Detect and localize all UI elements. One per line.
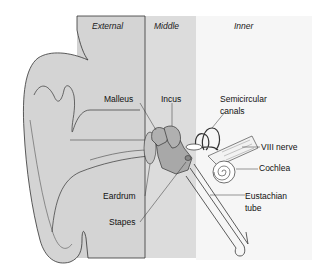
label-semicircular-line1: Semicircular <box>220 94 267 105</box>
vestibule-shape <box>186 144 202 150</box>
region-label-inner: Inner <box>234 21 253 31</box>
label-viii-nerve: VIII nerve <box>261 142 297 153</box>
label-semicircular-line2: canals <box>220 106 245 117</box>
region-middle-bg <box>145 16 196 129</box>
ear-anatomy-diagram: External Middle Inner Malleus Incus Semi… <box>0 0 318 279</box>
label-stapes: Stapes <box>109 217 135 228</box>
ear-illustration <box>0 0 318 279</box>
region-inner-bg <box>196 16 312 260</box>
label-eardrum: Eardrum <box>103 191 136 202</box>
label-eustachian-line1: Eustachian <box>245 191 287 202</box>
stapes-shape <box>185 156 191 161</box>
region-label-external: External <box>92 21 123 31</box>
label-cochlea: Cochlea <box>259 163 290 174</box>
label-malleus: Malleus <box>104 94 133 105</box>
label-incus: Incus <box>161 94 181 105</box>
label-eustachian-line2: tube <box>245 203 262 214</box>
region-label-middle: Middle <box>154 21 179 31</box>
